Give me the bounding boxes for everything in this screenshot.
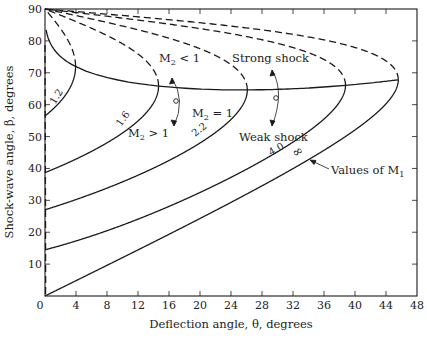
- y-tick-label: 80: [28, 35, 42, 48]
- x-tick-label: 8: [104, 299, 111, 312]
- svg-text:M2 > 1: M2 > 1: [128, 126, 169, 142]
- y-tick-label: 70: [28, 67, 42, 80]
- y-tick-label: 40: [28, 162, 42, 175]
- ticks-layer: 0481216202428323640444810203040506070809…: [28, 3, 424, 312]
- annotation-m2-lt-1: M2 < 1: [159, 51, 200, 67]
- curve-label-2-2: 2.2: [189, 120, 208, 138]
- plot-frame: [45, 9, 417, 296]
- x-tick-label: 48: [410, 299, 424, 312]
- x-tick-label: 16: [162, 299, 176, 312]
- x-tick-label: 36: [317, 299, 331, 312]
- x-tick-label: 28: [255, 299, 269, 312]
- y-axis-title: Shock-wave angle, β, degrees: [2, 65, 16, 238]
- marker-sonic-point: [174, 99, 179, 104]
- arrow-down-icon: [171, 120, 177, 126]
- y-tick-label: 30: [28, 194, 42, 207]
- x-tick-label: 4: [73, 299, 80, 312]
- curve-m1-dashed-: [45, 9, 398, 80]
- y-tick-label: 50: [28, 131, 42, 144]
- annotation-strong-shock: Strong shock: [232, 51, 310, 65]
- svg-text:M2 < 1: M2 < 1: [159, 51, 200, 67]
- x-tick-label: 40: [348, 299, 362, 312]
- arrow-up-icon: [170, 78, 175, 84]
- arrow-down-icon: [270, 120, 275, 126]
- marker-shock-point: [274, 96, 279, 101]
- curve-m1-1-2-dashed-: [45, 9, 76, 66]
- x-axis-title: Deflection angle, θ, degrees: [149, 317, 313, 331]
- curve-label-infinity: ∞: [289, 142, 306, 160]
- x-tick-label: 12: [131, 299, 145, 312]
- annotation-weak-shock: Weak shock: [239, 130, 309, 144]
- x-tick-label: 0: [37, 299, 44, 312]
- x-tick-label: 32: [286, 299, 300, 312]
- svg-text:Values of M1: Values of M1: [330, 163, 404, 179]
- annotation-m2-gt-1: M2 > 1: [128, 126, 169, 142]
- annotation-values-of-m1: Values of M1: [330, 163, 404, 179]
- arrow-up-icon: [270, 70, 275, 76]
- theta-beta-mach-chart: 0481216202428323640444810203040506070809…: [0, 0, 427, 338]
- curve-label-1-2: 1.2: [47, 87, 65, 106]
- curves-layer: [45, 9, 398, 296]
- annotation-m2-eq-1: M2 = 1: [192, 106, 233, 122]
- x-tick-label: 44: [379, 299, 393, 312]
- y-tick-label: 20: [28, 226, 42, 239]
- arrow-left-icon: [310, 160, 316, 165]
- axes-layer: [45, 9, 417, 296]
- x-tick-label: 24: [224, 299, 238, 312]
- svg-text:M2 = 1: M2 = 1: [192, 106, 233, 122]
- x-tick-label: 20: [193, 299, 207, 312]
- y-tick-label: 90: [28, 3, 42, 16]
- y-tick-label: 60: [28, 99, 42, 112]
- y-tick-label: 10: [28, 258, 42, 271]
